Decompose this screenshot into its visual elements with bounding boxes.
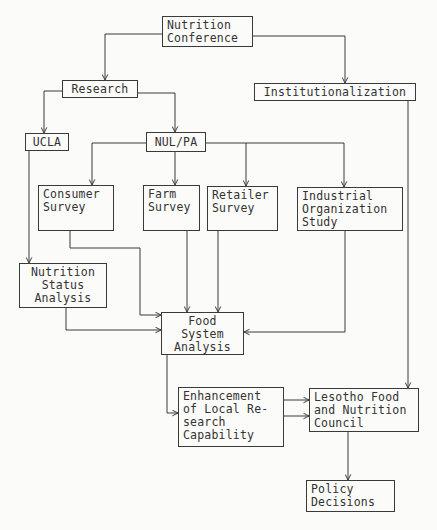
node-food-system-analysis: Food System Analysis xyxy=(161,312,244,355)
edge-conference-research xyxy=(105,34,162,80)
edge-nulpa-retailer xyxy=(206,143,246,186)
edge-nulpa-consumer xyxy=(92,143,146,185)
node-research: Research xyxy=(62,80,138,98)
node-farm-survey: Farm Survey xyxy=(143,185,200,231)
node-consumer-survey: Consumer Survey xyxy=(38,185,114,231)
node-retailer-survey: Retailer Survey xyxy=(207,186,278,231)
edge-foodsystem-enhancement xyxy=(167,355,178,413)
edge-industrial-foodsystem xyxy=(244,231,345,332)
node-ucla: UCLA xyxy=(25,133,69,151)
node-policy-decisions: Policy Decisions xyxy=(306,480,395,512)
flowchart-canvas: Nutrition Conference Research Institutio… xyxy=(0,0,437,530)
node-industrial-organization-study: Industrial Organization Study xyxy=(297,187,403,231)
node-nutrition-status-analysis: Nutrition Status Analysis xyxy=(19,263,107,308)
node-nul-pa: NUL/PA xyxy=(146,132,206,152)
edge-nulpa-industrial xyxy=(246,143,344,187)
node-nutrition-conference: Nutrition Conference xyxy=(162,16,253,47)
edge-conference-institutionalization xyxy=(253,36,345,83)
edge-research-ucla xyxy=(44,91,62,133)
node-institutionalization: Institutionalization xyxy=(254,83,416,101)
edge-research-nulpa xyxy=(138,93,175,132)
edge-nutritionstatus-foodsystem xyxy=(66,308,161,330)
node-enhancement-local-research-capability: Enhancement of Local Re- search Capabili… xyxy=(178,387,284,447)
node-lesotho-food-nutrition-council: Lesotho Food and Nutrition Council xyxy=(309,388,419,432)
